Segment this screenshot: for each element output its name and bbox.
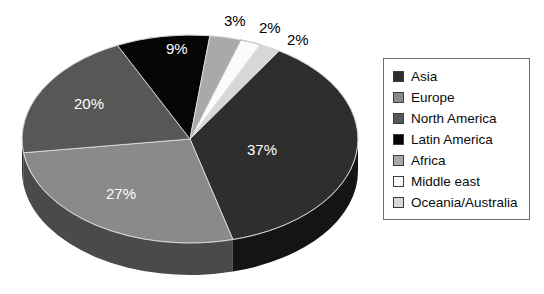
legend-item-north-america[interactable]: North America [393,108,529,129]
slice-label-oceania: 2% [287,32,309,47]
legend-swatch-north-america [393,113,404,124]
legend-swatch-middle-east [393,176,404,187]
legend-label-europe: Europe [411,91,455,105]
chart-legend: Asia Europe North America Latin America … [383,58,530,220]
pie-top-face [22,35,358,243]
legend-item-europe[interactable]: Europe [393,87,529,108]
legend-label-asia: Asia [411,70,437,84]
legend-label-oceania: Oceania/Australia [411,196,518,210]
legend-label-north-america: North America [411,112,497,126]
slice-label-asia: 37% [247,142,277,157]
legend-swatch-asia [393,71,404,82]
legend-swatch-europe [393,92,404,103]
slice-label-north-america: 20% [74,96,104,111]
legend-label-latin-america: Latin America [411,133,493,147]
legend-item-asia[interactable]: Asia [393,66,529,87]
legend-label-africa: Africa [411,154,446,168]
legend-label-middle-east: Middle east [411,175,480,189]
legend-item-africa[interactable]: Africa [393,150,529,171]
slice-label-africa: 3% [224,13,246,28]
chart-canvas: 9% 37% 20% 27% 3% 2% 2% Asia Europe Nort… [0,0,544,294]
legend-item-latin-america[interactable]: Latin America [393,129,529,150]
slice-label-middle-east: 2% [259,20,281,35]
legend-swatch-africa [393,155,404,166]
slice-label-latin-america: 9% [166,41,188,56]
legend-swatch-oceania [393,197,404,208]
legend-item-middle-east[interactable]: Middle east [393,171,529,192]
legend-swatch-latin-america [393,134,404,145]
pie-chart: 9% 37% 20% 27% 3% 2% 2% [0,0,372,294]
slice-label-europe: 27% [106,186,136,201]
legend-item-oceania[interactable]: Oceania/Australia [393,192,529,213]
